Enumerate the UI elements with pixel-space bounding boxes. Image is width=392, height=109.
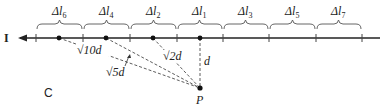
sqrt5d-arrow-icon (127, 54, 131, 58)
segment-label-dl4: Δl4 (98, 4, 113, 20)
segment-braces (37, 20, 361, 29)
point-p (197, 85, 202, 90)
segment-label-dl1: Δl1 (191, 4, 206, 20)
segment-labels: Δl6 Δl4 Δl2 Δl1 Δl3 Δl5 Δl7 (51, 4, 345, 20)
panel-label: C (44, 86, 53, 100)
label-sqrt10d: √10d (77, 43, 103, 57)
segment-label-dl6: Δl6 (51, 4, 66, 20)
label-sqrt5d: √5d (106, 65, 126, 79)
wire-field-diagram: I Δl6 Δl4 Δl2 Δl1 Δl3 Δl5 Δl7 (0, 0, 392, 109)
label-p: P (195, 93, 204, 107)
segment-label-dl3: Δl3 (237, 4, 252, 20)
current-arrow-icon (18, 35, 27, 42)
label-d: d (204, 54, 211, 68)
segment-label-dl7: Δl7 (330, 4, 345, 20)
current-label: I (4, 31, 9, 45)
segment-label-dl5: Δl5 (284, 4, 299, 20)
label-sqrt2d: √2d (163, 49, 183, 63)
segment-label-dl2: Δl2 (145, 4, 160, 20)
